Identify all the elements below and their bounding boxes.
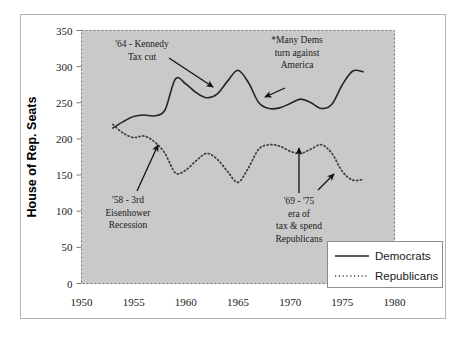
y-axis-title: House of Rep. Seats	[25, 97, 39, 218]
annotation-text-line: Tax cut	[128, 52, 156, 62]
chart-figure: 050100150200250300350 195019551960196519…	[0, 0, 469, 342]
annotation-text-line: Eisenhower	[106, 208, 152, 218]
y-tick-label: 0	[67, 278, 73, 290]
legend-label: Democrats	[375, 250, 431, 262]
y-tick-label: 350	[56, 25, 73, 37]
y-tick-label: 200	[56, 133, 73, 145]
annotation-text-line: tax & spend	[276, 221, 322, 231]
x-tick-label: 1960	[175, 296, 198, 308]
annotation-text-line: Recession	[109, 220, 148, 230]
y-tick-label: 50	[62, 241, 74, 253]
annotation-text-line: turn against	[275, 48, 320, 58]
x-tick-label: 1980	[384, 296, 407, 308]
legend-label: Republicans	[375, 270, 439, 282]
x-tick-label: 1950	[71, 296, 94, 308]
y-tick-label: 300	[56, 61, 73, 73]
annotation-text-line: '58 - 3rd	[112, 195, 144, 205]
x-tick-label: 1955	[123, 296, 146, 308]
y-tick-label: 100	[56, 205, 73, 217]
annotation-text-line: '69 - '75	[284, 196, 315, 206]
chart-legend[interactable]: DemocratsRepublicans	[328, 242, 443, 288]
y-tick-label: 250	[56, 97, 73, 109]
annotation-text-line: America	[281, 60, 314, 70]
x-tick-label: 1970	[279, 296, 302, 308]
annotation-text-line: '64 - Kennedy	[115, 39, 169, 49]
annotation-text-line: era of	[288, 209, 311, 219]
x-tick-label: 1975	[331, 296, 354, 308]
annotation-text-line: Republicans	[276, 234, 323, 244]
y-tick-label: 150	[56, 169, 73, 181]
annotation-text-line: *Many Dems	[271, 35, 323, 45]
x-tick-label: 1965	[227, 296, 250, 308]
